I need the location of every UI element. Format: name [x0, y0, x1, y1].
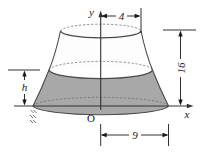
figure-container: y x O 4: [0, 0, 202, 152]
y-axis-label: y: [88, 6, 94, 18]
top-dim-right-arrowhead: [135, 14, 141, 18]
hatch-mark-5: [30, 120, 33, 123]
bottom-width-label: 9: [132, 129, 138, 141]
hatch-mark-4: [33, 115, 36, 118]
height-dimension: 16: [163, 30, 196, 106]
top-width-label: 4: [119, 10, 125, 22]
hatch-mark-1: [31, 110, 34, 113]
height-dim-bottom-arrowhead: [178, 100, 182, 106]
liquid-depth-dimension: h: [8, 70, 40, 106]
base-hatch-marks: [30, 110, 37, 123]
bottom-width-dimension: 9: [101, 124, 169, 146]
hatch-mark-2: [34, 110, 37, 113]
origin-label: O: [87, 112, 95, 124]
bottom-dim-left-arrowhead: [101, 133, 107, 137]
x-axis-label: x: [184, 108, 190, 120]
bottom-dim-right-arrowhead: [163, 133, 169, 137]
hatch-mark-6: [33, 120, 36, 123]
tank-diagram: y x O 4: [0, 0, 202, 152]
depth-dim-bottom-arrowhead: [22, 100, 26, 106]
hatch-mark-3: [30, 115, 33, 118]
liquid-depth-label: h: [22, 81, 28, 93]
depth-dim-top-arrowhead: [22, 71, 26, 77]
height-label: 16: [175, 62, 187, 74]
height-dim-top-arrowhead: [178, 31, 182, 37]
